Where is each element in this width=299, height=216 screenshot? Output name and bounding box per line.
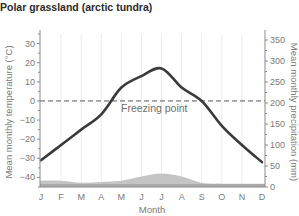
svg-text:30: 30 [25, 39, 35, 49]
svg-text:0: 0 [30, 96, 35, 106]
svg-text:350: 350 [270, 35, 285, 45]
svg-text:M: M [77, 192, 85, 202]
svg-text:M: M [118, 192, 126, 202]
svg-text:N: N [239, 192, 246, 202]
svg-text:J: J [39, 192, 44, 202]
temperature-line [41, 68, 262, 162]
svg-text:0: 0 [270, 182, 275, 192]
right-axis-ticks: 050100150200250300350 [265, 35, 285, 192]
svg-text:J: J [159, 192, 164, 202]
x-axis-label: Month [139, 204, 165, 215]
right-axis-label: Mean monthly precipitation (mm) [289, 43, 299, 181]
svg-text:S: S [199, 192, 205, 202]
climate-chart: Freezing point −40−30−20−100102030 05010… [0, 0, 299, 216]
left-axis-label: Mean monthly temperature (°C) [3, 45, 14, 178]
svg-text:−10: −10 [20, 115, 35, 125]
svg-text:O: O [218, 192, 225, 202]
month-ticks: JFMAMJJASOND [39, 192, 266, 202]
svg-text:150: 150 [270, 119, 285, 129]
left-axis-ticks: −40−30−20−100102030 [20, 34, 40, 187]
svg-text:−20: −20 [20, 134, 35, 144]
freezing-point-label: Freezing point [121, 102, 188, 114]
svg-text:−30: −30 [20, 153, 35, 163]
svg-text:50: 50 [270, 161, 280, 171]
svg-text:300: 300 [270, 56, 285, 66]
svg-text:F: F [58, 192, 64, 202]
svg-text:100: 100 [270, 140, 285, 150]
svg-text:A: A [98, 192, 104, 202]
svg-text:10: 10 [25, 77, 35, 87]
svg-text:J: J [139, 192, 144, 202]
svg-text:200: 200 [270, 98, 285, 108]
svg-text:−40: −40 [20, 172, 35, 182]
svg-text:D: D [259, 192, 266, 202]
svg-text:A: A [179, 192, 185, 202]
svg-text:20: 20 [25, 58, 35, 68]
svg-text:250: 250 [270, 77, 285, 87]
